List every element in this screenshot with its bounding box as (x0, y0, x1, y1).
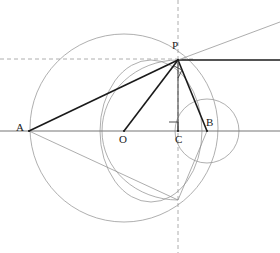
segment-Q-B (178, 131, 207, 200)
point-label-O: O (119, 134, 127, 145)
point-dot-C (177, 130, 179, 132)
right-angle-at-C (169, 122, 178, 131)
segment-PB (178, 60, 207, 131)
segment-AP (29, 60, 178, 131)
point-dot-A (28, 130, 30, 132)
arc-lower-left (102, 131, 178, 200)
big-circle (30, 34, 218, 222)
point-dot-B (206, 130, 208, 132)
point-dot-P (177, 59, 179, 61)
geometry-figure: AOCBP (0, 0, 280, 253)
ray-P-upper-right (178, 22, 280, 60)
point-dot-O (123, 130, 125, 132)
point-label-P: P (172, 40, 178, 51)
arc-through-P-and-Q (102, 60, 178, 131)
figure-canvas (0, 0, 280, 253)
segment-OP (124, 60, 178, 131)
segment-A-Q (29, 131, 178, 200)
point-label-B: B (206, 117, 213, 128)
point-label-A: A (16, 122, 24, 133)
point-label-C: C (175, 134, 182, 145)
